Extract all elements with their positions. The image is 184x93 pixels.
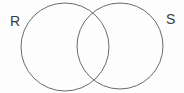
venn-circles <box>0 0 184 93</box>
left-circle-outline <box>21 3 109 91</box>
venn-diagram: R S <box>0 0 184 93</box>
set-label-r: R <box>10 14 20 28</box>
right-circle-outline <box>77 3 163 89</box>
set-label-s: S <box>166 12 175 26</box>
